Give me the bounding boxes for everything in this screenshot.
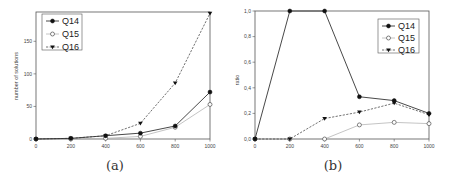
legend-label: Q16	[62, 42, 79, 52]
chart-panel-a: 02004006008001000050100150number of solu…	[13, 12, 216, 173]
x-tick-label: 200	[286, 143, 295, 149]
y-tick-label: 0,0	[244, 136, 251, 142]
legend-label: Q15	[398, 33, 415, 43]
x-tick-label: 1000	[423, 143, 434, 149]
series-q15	[253, 120, 431, 141]
series-q16	[253, 102, 432, 142]
filled-circle-marker-icon	[69, 136, 73, 140]
down-triangle-marker-icon	[322, 117, 327, 121]
legend: Q14Q15Q16	[42, 14, 82, 52]
legend-label: Q14	[62, 16, 79, 26]
x-tick-label: 400	[320, 143, 329, 149]
series-q15	[34, 102, 212, 141]
x-tick-label: 0	[35, 143, 38, 149]
filled-circle-marker-icon	[427, 111, 431, 115]
filled-circle-marker-icon	[208, 90, 212, 94]
legend-label: Q16	[398, 45, 415, 55]
x-tick-label: 200	[67, 143, 76, 149]
legend: Q14Q15Q16	[378, 19, 419, 55]
y-tick-label: 150	[24, 38, 33, 44]
y-tick-label: 1,0	[244, 8, 251, 14]
legend-label: Q14	[398, 21, 415, 31]
open-circle-marker-icon	[427, 122, 431, 126]
y-tick-label: 0,8	[244, 33, 251, 39]
panel-caption: (a)	[106, 158, 124, 173]
filled-circle-marker-icon	[253, 137, 257, 141]
series-line	[36, 92, 210, 139]
series-line	[255, 122, 429, 139]
filled-circle-marker-icon	[138, 131, 142, 135]
open-circle-marker-icon	[323, 137, 327, 141]
legend-label: Q15	[62, 29, 79, 39]
y-tick-label: 100	[24, 71, 33, 77]
panel-caption: (b)	[324, 158, 342, 173]
y-tick-label: 50	[26, 103, 32, 109]
filled-circle-marker-icon	[288, 9, 292, 13]
figure: 02004006008001000050100150number of solu…	[0, 0, 450, 182]
x-tick-label: 800	[171, 143, 180, 149]
x-tick-label: 0	[254, 143, 257, 149]
x-tick-label: 600	[355, 143, 364, 149]
x-tick-label: 800	[390, 143, 399, 149]
filled-circle-marker-icon	[104, 134, 108, 138]
down-triangle-marker-icon	[173, 81, 178, 85]
down-triangle-marker-icon	[208, 12, 213, 16]
filled-circle-marker-icon	[51, 19, 55, 23]
series-line	[36, 104, 210, 139]
x-tick-label: 400	[101, 143, 110, 149]
filled-circle-marker-icon	[392, 99, 396, 103]
open-circle-marker-icon	[51, 32, 55, 36]
filled-circle-marker-icon	[34, 137, 38, 141]
open-circle-marker-icon	[392, 120, 396, 124]
series-line	[255, 103, 429, 139]
y-tick-label: 0,6	[244, 59, 251, 65]
y-axis-label: ratio	[234, 75, 240, 86]
y-axis-label: number of solutions	[13, 52, 19, 100]
series-q14	[34, 90, 212, 141]
y-tick-label: 0	[29, 136, 32, 142]
open-circle-marker-icon	[387, 36, 391, 40]
x-tick-label: 600	[136, 143, 145, 149]
filled-circle-marker-icon	[323, 9, 327, 13]
chart-panel-b: 020040060080010000,00,20,40,60,81,0ratio…	[234, 8, 435, 173]
x-tick-label: 1000	[204, 143, 215, 149]
filled-circle-marker-icon	[387, 24, 391, 28]
filled-circle-marker-icon	[173, 124, 177, 128]
y-tick-label: 0,2	[244, 110, 251, 116]
filled-circle-marker-icon	[357, 95, 361, 99]
open-circle-marker-icon	[357, 123, 361, 127]
y-tick-label: 0,4	[244, 85, 251, 91]
open-circle-marker-icon	[208, 102, 212, 106]
